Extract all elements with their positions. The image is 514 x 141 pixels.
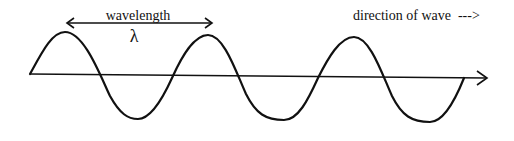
direction-label: direction of wave ---> [353,8,480,23]
wavelength-label: wavelength [106,8,171,23]
lambda-symbol: λ [130,26,139,46]
wave-diagram: wavelength λ direction of wave ---> [0,0,514,141]
